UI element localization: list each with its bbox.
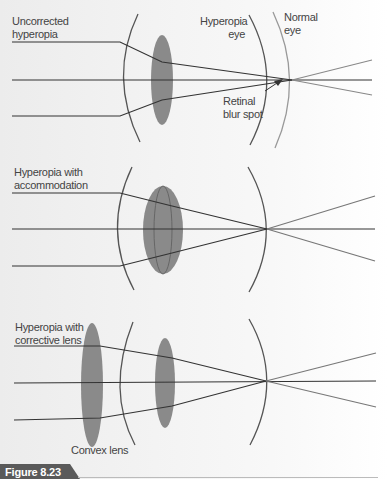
label-line: eye (284, 24, 318, 37)
title-line-2: accommodation (14, 179, 88, 192)
eye-lens-corrected (155, 338, 175, 428)
title-line-1: Uncorrected (12, 15, 69, 28)
accommodated-lens (143, 186, 183, 274)
title-line-2: hyperopia (12, 28, 69, 41)
label-line: Retinal (223, 95, 263, 108)
label-line: blur spot (223, 108, 263, 121)
title-line-1: Hyperopia with (15, 321, 84, 334)
figure-number: Figure 8.23 (5, 465, 61, 479)
panel-1-title: Uncorrected hyperopia (12, 15, 69, 41)
label-line: Hyperopia (200, 15, 245, 28)
panel-3-title: Hyperopia with corrective lens (15, 321, 84, 347)
label-line: Normal (284, 11, 318, 24)
panel-2-title: Hyperopia with accommodation (14, 166, 88, 192)
title-line-2: corrective lens (15, 334, 84, 347)
figure-canvas: Uncorrected hyperopia Hyperopia eye Norm… (0, 0, 388, 479)
figure-badge: Figure 8.23 (0, 464, 78, 479)
title-line-1: Hyperopia with (14, 166, 88, 179)
convex-lens-label: Convex lens (71, 444, 128, 457)
figure-rule (78, 477, 378, 478)
cornea-arc (123, 14, 140, 142)
convex-lens (81, 323, 103, 447)
optics-diagram (0, 0, 388, 479)
hyperopia-eye-label: Hyperopia eye (200, 15, 245, 41)
normal-eye-label: Normal eye (284, 11, 318, 37)
retinal-blur-spot-label: Retinal blur spot (223, 95, 263, 121)
label-line: eye (200, 28, 245, 41)
